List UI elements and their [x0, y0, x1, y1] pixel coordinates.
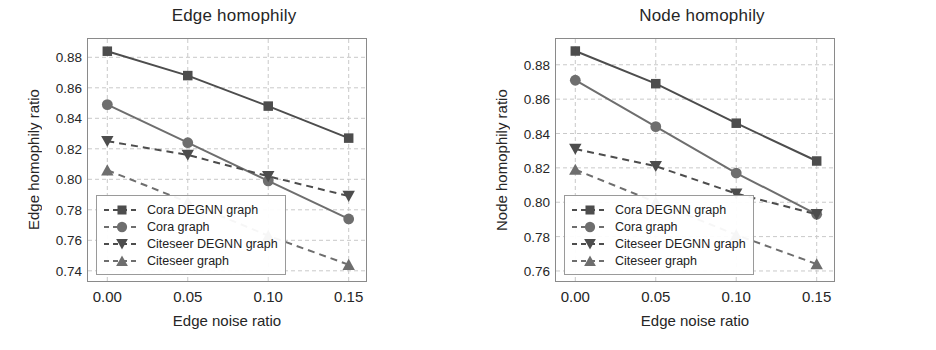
y-axis-tick-label: 0.86	[56, 80, 82, 95]
y-axis-tick-label: 0.86	[524, 92, 550, 107]
series-line	[571, 46, 822, 165]
figure-two-panel-line-charts: Edge homophily Edge homophily ratio 0.74…	[0, 0, 936, 350]
triangle-up-marker	[810, 258, 822, 269]
y-axis-tick-label: 0.80	[56, 172, 82, 187]
legend-item[interactable]: Cora graph	[570, 218, 746, 235]
legend-marker-sample	[102, 236, 142, 252]
x-axis-tick-label: 0.10	[254, 288, 283, 305]
y-axis-tick-label: 0.76	[56, 233, 82, 248]
triangle-down-marker	[650, 161, 662, 172]
triangle-up-marker	[569, 164, 581, 175]
square-marker	[263, 101, 273, 111]
x-axis-tick-label: 0.05	[173, 288, 202, 305]
circle-marker	[650, 121, 661, 132]
triangle-up-marker	[101, 164, 113, 175]
y-axis-label: Node homophily ratio	[489, 38, 513, 282]
y-axis-label: Edge homophily ratio	[21, 38, 45, 282]
legend-item[interactable]: Citeseer graph	[102, 252, 278, 269]
square-marker	[103, 46, 113, 56]
legend-marker-sample	[570, 219, 610, 235]
legend-item[interactable]: Citeseer DEGNN graph	[102, 235, 278, 252]
chart-title: Node homophily	[468, 6, 936, 26]
legend-marker-sample	[570, 202, 610, 218]
chart-legend: Cora DEGNN graphCora graphCiteseer DEGNN…	[564, 195, 754, 275]
legend-item-label: Citeseer DEGNN graph	[615, 237, 746, 251]
legend-item-label: Cora graph	[615, 220, 678, 234]
circle-marker	[570, 75, 581, 86]
circle-marker	[731, 168, 742, 179]
circle-marker	[182, 137, 193, 148]
y-axis-tick-label: 0.84	[56, 111, 82, 126]
circle-marker	[343, 214, 354, 225]
square-marker	[117, 205, 126, 214]
legend-item-label: Cora graph	[147, 220, 210, 234]
y-axis-tick-label: 0.78	[56, 202, 82, 217]
y-axis-tick-label: 0.74	[56, 263, 82, 278]
x-axis-label: Edge noise ratio	[555, 312, 835, 329]
circle-marker	[585, 221, 595, 231]
chart-legend: Cora DEGNN graphCora graphCiteseer DEGNN…	[96, 195, 286, 275]
legend-item-label: Citeseer DEGNN graph	[147, 237, 278, 251]
legend-item-label: Citeseer graph	[615, 254, 697, 268]
square-marker	[731, 118, 741, 128]
square-marker	[585, 205, 594, 214]
y-axis-tick-label: 0.82	[56, 141, 82, 156]
legend-marker-sample	[102, 219, 142, 235]
square-marker	[571, 46, 581, 56]
square-marker	[651, 79, 661, 89]
square-marker	[812, 156, 822, 166]
square-marker	[344, 133, 354, 143]
legend-item[interactable]: Cora DEGNN graph	[102, 201, 278, 218]
chart-title: Edge homophily	[0, 6, 468, 26]
legend-item[interactable]: Cora graph	[102, 218, 278, 235]
x-axis-tick-label: 0.15	[334, 288, 363, 305]
circle-marker	[117, 221, 127, 231]
plot-area: 0.740.760.780.800.820.840.860.880.000.05…	[87, 38, 367, 282]
y-axis-tick-label: 0.80	[524, 195, 550, 210]
series-line	[101, 136, 355, 202]
plot-area: 0.760.780.800.820.840.860.880.000.050.10…	[555, 38, 835, 282]
legend-marker-sample	[102, 202, 142, 218]
x-axis-tick-label: 0.05	[641, 288, 670, 305]
y-axis-tick-label: 0.78	[524, 229, 550, 244]
y-axis-tick-label: 0.88	[56, 50, 82, 65]
triangle-up-marker	[342, 259, 354, 270]
legend-item[interactable]: Citeseer graph	[570, 252, 746, 269]
x-axis-label: Edge noise ratio	[87, 312, 367, 329]
legend-marker-sample	[570, 236, 610, 252]
x-axis-tick-label: 0.10	[722, 288, 751, 305]
triangle-down-marker	[342, 191, 354, 202]
legend-item[interactable]: Cora DEGNN graph	[570, 201, 746, 218]
legend-item-label: Cora DEGNN graph	[615, 203, 726, 217]
panel-edge-homophily: Edge homophily Edge homophily ratio 0.74…	[0, 0, 468, 350]
y-axis-tick-label: 0.88	[524, 57, 550, 72]
legend-item[interactable]: Citeseer DEGNN graph	[570, 235, 746, 252]
y-axis-tick-label: 0.82	[524, 160, 550, 175]
series-line	[103, 46, 354, 142]
legend-marker-sample	[102, 253, 142, 269]
circle-marker	[102, 99, 113, 110]
legend-item-label: Cora DEGNN graph	[147, 203, 258, 217]
legend-item-label: Citeseer graph	[147, 254, 229, 268]
panel-node-homophily: Node homophily Node homophily ratio 0.76…	[468, 0, 936, 350]
y-axis-tick-label: 0.76	[524, 263, 550, 278]
legend-marker-sample	[570, 253, 610, 269]
square-marker	[183, 71, 193, 81]
x-axis-tick-label: 0.15	[802, 288, 831, 305]
x-axis-tick-label: 0.00	[93, 288, 122, 305]
x-axis-tick-label: 0.00	[561, 288, 590, 305]
y-axis-tick-label: 0.84	[524, 126, 550, 141]
